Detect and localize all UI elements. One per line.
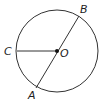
label-a: A (27, 89, 36, 101)
label-o: O (60, 47, 69, 60)
label-c: C (4, 45, 12, 58)
label-b: B (80, 3, 88, 16)
center-point (55, 49, 59, 53)
circle-diagram: B C O A (0, 0, 100, 101)
